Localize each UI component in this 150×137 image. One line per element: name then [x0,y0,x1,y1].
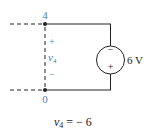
source-top-sign: − [108,44,114,55]
node-4-dot [43,22,47,26]
measurement-plus: + [49,36,55,47]
measurement-minus: − [49,69,55,80]
node-0-label: 0 [42,93,48,105]
circuit-diagram: − + 6 V 4 0 + v4 − v4 = − 6 [0,0,150,137]
node-0-dot [43,88,47,92]
equation: v4 = − 6 [54,115,92,130]
measurement-variable: v4 [48,51,57,65]
source-value-label: 6 V [127,54,143,66]
node-4-label: 4 [42,9,48,21]
source-bottom-sign: + [108,61,114,72]
